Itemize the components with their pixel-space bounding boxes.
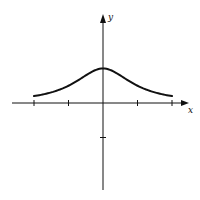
chart: x y bbox=[0, 0, 200, 200]
x-axis-label: x bbox=[188, 105, 193, 115]
y-axis-arrow-icon bbox=[100, 14, 106, 23]
y-axis-label: y bbox=[107, 12, 114, 22]
